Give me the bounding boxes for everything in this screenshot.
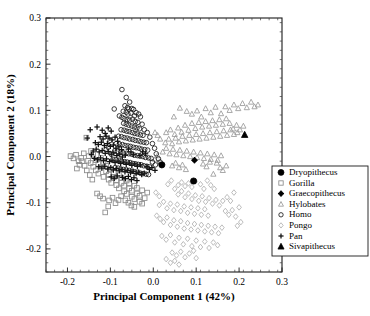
y-tick-label: -0.2 <box>26 244 41 254</box>
data-point <box>191 178 197 184</box>
x-tick-label: 0.0 <box>147 277 159 287</box>
y-tick-label: 0.0 <box>29 152 41 162</box>
x-axis-title: Principal Component 1 (42%) <box>93 290 235 303</box>
legend: DryopithecusGorillaGraecopithecusHylobat… <box>272 166 368 256</box>
y-tick-label: 0.1 <box>29 106 41 116</box>
y-tick-label: 0.3 <box>29 13 41 23</box>
legend-label-pongo: Pongo <box>289 220 313 230</box>
legend-label-pan: Pan <box>289 231 303 241</box>
legend-label-hylobates: Hylobates <box>289 199 326 209</box>
legend-label-sivapithecus: Sivapithecus <box>289 241 335 251</box>
y-tick-label: -0.1 <box>26 198 41 208</box>
x-tick-label: 0.2 <box>233 277 245 287</box>
legend-label-graecopithecus: Graecopithecus <box>289 188 345 198</box>
legend-label-gorilla: Gorilla <box>289 178 315 188</box>
y-tick-label: 0.2 <box>29 60 41 70</box>
legend-marker-dryopithecus <box>278 169 284 175</box>
x-tick-label: -0.1 <box>103 277 118 287</box>
x-tick-label: 0.1 <box>190 277 202 287</box>
legend-label-homo: Homo <box>289 209 312 219</box>
x-tick-label: -0.2 <box>60 277 75 287</box>
pca-scatter-figure: -0.2-0.10.00.10.20.3 0.30.20.10.0-0.1-0.… <box>0 0 370 316</box>
y-axis-title: Principal Component 2 (18%) <box>4 74 17 216</box>
x-tick-label: 0.3 <box>276 277 288 287</box>
data-point <box>159 162 165 168</box>
legend-label-dryopithecus: Dryopithecus <box>289 167 338 177</box>
